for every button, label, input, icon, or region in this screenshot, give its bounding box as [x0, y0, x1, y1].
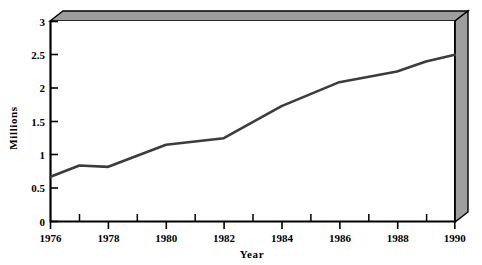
- y-axis-title: Millions: [7, 106, 19, 149]
- y-tick-label-0-5: 0.5: [31, 182, 45, 194]
- y-tick-label-1-5: 1.5: [31, 116, 45, 128]
- x-tick-label-1982: 1982: [213, 232, 236, 244]
- right-wall-face: [455, 11, 468, 222]
- x-tick-label-1978: 1978: [97, 232, 120, 244]
- x-axis-tick-labels: 1976 1978 1980 1982 1984 1986 1988 1990: [40, 232, 467, 244]
- x-tick-label-1986: 1986: [329, 232, 352, 244]
- top-wall-face: [50, 11, 468, 21]
- x-tick-label-1980: 1980: [155, 232, 178, 244]
- x-tick-label-1988: 1988: [387, 232, 410, 244]
- chart-container: 0 0.5 1 1.5 2 2.5 3: [0, 0, 482, 265]
- x-tick-label-1984: 1984: [271, 232, 294, 244]
- x-tick-label-1990: 1990: [444, 232, 467, 244]
- line-chart: 0 0.5 1 1.5 2 2.5 3: [0, 0, 482, 265]
- y-tick-label-2-5: 2.5: [31, 49, 45, 61]
- y-tick-label-0: 0: [40, 216, 46, 228]
- chart-3d-right-wall: [455, 11, 468, 222]
- y-tick-label-3: 3: [40, 16, 46, 28]
- y-tick-label-2: 2: [40, 82, 46, 94]
- y-tick-label-1: 1: [40, 149, 46, 161]
- y-axis-tick-labels: 0 0.5 1 1.5 2 2.5 3: [31, 16, 45, 228]
- chart-3d-top-wall: [50, 11, 468, 21]
- x-axis-title: Year: [240, 248, 264, 260]
- x-axis-ticks: [51, 222, 455, 229]
- x-tick-label-1976: 1976: [40, 232, 63, 244]
